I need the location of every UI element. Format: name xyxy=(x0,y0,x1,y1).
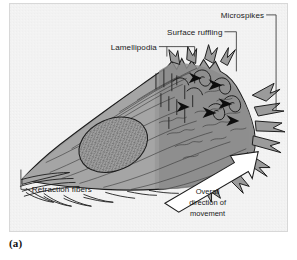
direction-arrow-line3: movement xyxy=(190,209,226,218)
direction-arrow-line1: Overall xyxy=(196,187,220,196)
figure-root: Overall direction of movement Microspike… xyxy=(0,0,297,260)
label-lamellipodia: Lamellipodia xyxy=(111,43,158,52)
diagram-panel: Overall direction of movement Microspike… xyxy=(9,3,288,232)
figure-caption: (a) xyxy=(9,237,22,249)
label-surface-ruffling: Surface ruffling xyxy=(167,28,222,37)
direction-arrow-line2: direction of xyxy=(189,198,227,207)
crawling-cell-diagram: Overall direction of movement Microspike… xyxy=(10,4,287,231)
label-microspikes: Microspikes xyxy=(221,11,264,20)
label-retraction-fibers: Retraction fibers xyxy=(32,185,92,194)
